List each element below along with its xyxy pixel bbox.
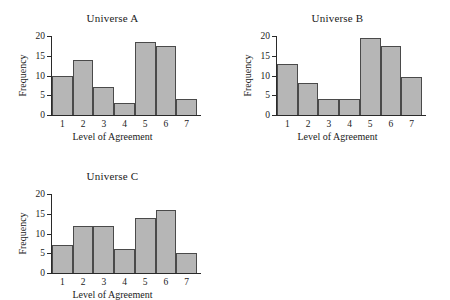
y-tick-label: 10 — [36, 229, 46, 239]
y-tick-label: 20 — [36, 31, 46, 41]
panel-title-universe-a: Universe A — [0, 12, 225, 24]
x-tick-label: 4 — [122, 119, 127, 129]
x-tick-label: 1 — [60, 119, 65, 129]
y-tick-label: 15 — [36, 51, 46, 61]
y-tick-label: 20 — [36, 189, 46, 199]
y-tick-mark — [272, 36, 276, 37]
y-tick-mark — [272, 115, 276, 116]
y-tick-label: 0 — [40, 110, 45, 120]
histogram-bar — [156, 46, 177, 115]
x-tick-label: 2 — [81, 119, 86, 129]
x-axis-label-universe-c: Level of Agreement — [0, 289, 225, 300]
x-tick-label: 2 — [81, 277, 86, 287]
y-tick-mark — [47, 115, 51, 116]
y-tick-mark — [47, 214, 51, 215]
plot-area-universe-b: 051015201234567 — [277, 36, 422, 115]
x-axis-label-universe-b: Level of Agreement — [225, 131, 450, 142]
plot-area-universe-a: 051015201234567 — [52, 36, 197, 115]
x-tick-label: 5 — [368, 119, 373, 129]
x-tick-label: 1 — [285, 119, 290, 129]
histogram-bar — [73, 60, 94, 115]
x-tick-label: 7 — [409, 119, 414, 129]
histogram-bar — [318, 99, 339, 115]
y-tick-label: 5 — [265, 90, 270, 100]
histogram-bar — [52, 245, 73, 273]
x-tick-label: 6 — [389, 119, 394, 129]
x-tick-label: 5 — [143, 277, 148, 287]
histogram-bar — [93, 87, 114, 115]
histogram-bar — [135, 218, 156, 273]
x-tick-label: 5 — [143, 119, 148, 129]
x-tick-label: 7 — [184, 277, 189, 287]
y-tick-mark — [272, 95, 276, 96]
histogram-bar — [156, 210, 177, 273]
histogram-panel-universe-b: Universe B Frequency 051015201234567 Lev… — [225, 0, 450, 150]
y-tick-mark — [272, 56, 276, 57]
histogram-bar — [176, 253, 197, 273]
x-axis-line — [51, 273, 201, 274]
y-tick-mark — [47, 36, 51, 37]
x-tick-label: 6 — [164, 277, 169, 287]
y-tick-label: 20 — [261, 31, 271, 41]
x-tick-label: 6 — [164, 119, 169, 129]
x-tick-label: 3 — [101, 277, 106, 287]
histogram-bar — [277, 64, 298, 115]
histogram-bar — [114, 103, 135, 115]
histogram-bar — [298, 83, 319, 115]
histogram-bar — [114, 249, 135, 273]
x-tick-label: 3 — [326, 119, 331, 129]
x-tick-label: 7 — [184, 119, 189, 129]
y-tick-mark — [47, 56, 51, 57]
y-tick-label: 0 — [265, 110, 270, 120]
histogram-bar — [381, 46, 402, 115]
y-tick-label: 10 — [261, 71, 271, 81]
histogram-bar — [401, 77, 422, 115]
histogram-bar — [135, 42, 156, 115]
y-tick-mark — [47, 253, 51, 254]
histogram-bar — [73, 226, 94, 273]
y-tick-label: 15 — [36, 209, 46, 219]
histogram-panel-universe-c: Universe C Frequency 051015201234567 Lev… — [0, 158, 225, 300]
x-tick-label: 1 — [60, 277, 65, 287]
histogram-bar — [93, 226, 114, 273]
panel-title-universe-b: Universe B — [225, 12, 450, 24]
y-tick-mark — [47, 273, 51, 274]
x-tick-label: 3 — [101, 119, 106, 129]
histogram-bar — [176, 99, 197, 115]
x-tick-label: 4 — [347, 119, 352, 129]
x-tick-label: 4 — [122, 277, 127, 287]
y-tick-mark — [272, 76, 276, 77]
y-tick-label: 0 — [40, 268, 45, 278]
plot-area-universe-c: 051015201234567 — [52, 194, 197, 273]
y-tick-mark — [47, 76, 51, 77]
panel-title-universe-c: Universe C — [0, 170, 225, 182]
y-tick-label: 5 — [40, 90, 45, 100]
histogram-bar — [52, 76, 73, 116]
y-tick-mark — [47, 234, 51, 235]
x-tick-label: 2 — [306, 119, 311, 129]
y-tick-label: 15 — [261, 51, 271, 61]
y-tick-label: 10 — [36, 71, 46, 81]
x-axis-line — [51, 115, 201, 116]
x-axis-label-universe-a: Level of Agreement — [0, 131, 225, 142]
histogram-bar — [360, 38, 381, 115]
histogram-bar — [339, 99, 360, 115]
y-tick-mark — [47, 194, 51, 195]
y-tick-mark — [47, 95, 51, 96]
x-axis-line — [276, 115, 426, 116]
y-tick-label: 5 — [40, 248, 45, 258]
histogram-panel-universe-a: Universe A Frequency 051015201234567 Lev… — [0, 0, 225, 150]
